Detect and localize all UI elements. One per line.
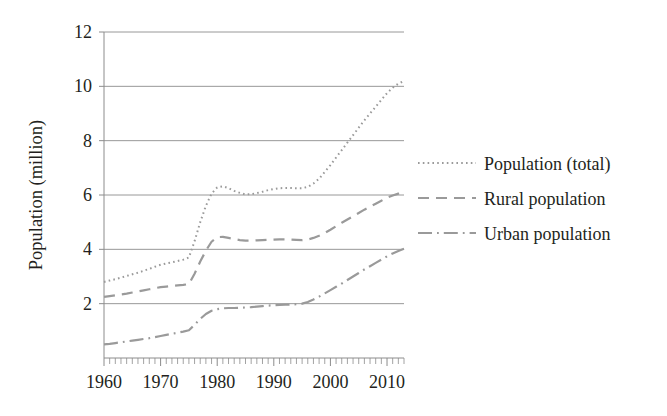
y-tick-label-8: 8 <box>83 131 92 151</box>
series-line-urban-population <box>104 249 404 345</box>
x-axis-tick-labels: 196019701980199020002010 <box>86 372 405 392</box>
x-tick-label-2000: 2000 <box>312 372 348 392</box>
y-tick-label-2: 2 <box>83 294 92 314</box>
x-tick-label-1990: 1990 <box>256 372 292 392</box>
line-chart: 24681012 196019701980199020002010 Popula… <box>0 0 667 416</box>
gridlines <box>104 32 404 358</box>
y-axis-title: Population (million) <box>26 120 47 271</box>
legend-label-2: Urban population <box>484 224 610 244</box>
x-tick-label-2010: 2010 <box>369 372 405 392</box>
y-tick-label-10: 10 <box>74 76 92 96</box>
legend-label-0: Population (total) <box>484 154 610 175</box>
y-tick-label-4: 4 <box>83 239 92 259</box>
data-series <box>104 81 404 345</box>
legend-label-1: Rural population <box>484 189 605 209</box>
axis-ticks <box>99 32 404 366</box>
series-line-rural-population <box>104 192 404 297</box>
series-line-population-total <box>104 81 404 282</box>
x-tick-label-1980: 1980 <box>199 372 235 392</box>
x-tick-label-1960: 1960 <box>86 372 122 392</box>
y-axis-tick-labels: 24681012 <box>74 22 92 314</box>
x-tick-label-1970: 1970 <box>143 372 179 392</box>
chart-figure: 24681012 196019701980199020002010 Popula… <box>0 0 667 416</box>
y-axis-title-text: Population (million) <box>26 120 47 271</box>
chart-legend: Population (total)Rural populationUrban … <box>418 154 610 244</box>
y-tick-label-6: 6 <box>83 185 92 205</box>
y-tick-label-12: 12 <box>74 22 92 42</box>
